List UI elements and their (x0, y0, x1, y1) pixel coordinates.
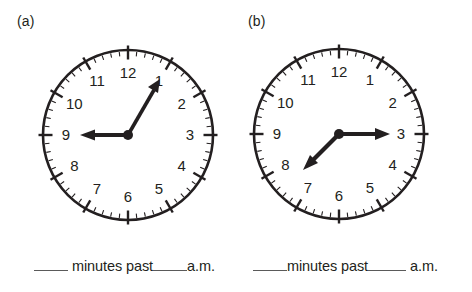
blank-minutes-b[interactable] (253, 270, 287, 271)
clock-numeral: 8 (281, 156, 289, 173)
clock-numeral: 7 (304, 179, 312, 196)
panel-label-b: (b) (248, 13, 266, 29)
clock-numeral: 6 (335, 187, 343, 204)
label-minutes-past-b: minutes past (287, 258, 368, 274)
clock-face-a: 121234567891011 (38, 45, 218, 225)
clock-numeral: 11 (89, 72, 105, 89)
clock-numeral: 4 (389, 156, 397, 173)
clock-numeral: 10 (277, 94, 294, 111)
clock-numeral: 4 (178, 157, 186, 174)
panel-label-a: (a) (17, 13, 35, 29)
clock-numeral: 9 (62, 126, 70, 143)
clock-numeral: 11 (300, 71, 316, 88)
label-minutes-past-a: minutes past (72, 258, 153, 274)
blank-hour-a[interactable] (153, 270, 187, 271)
clock-numeral: 12 (331, 63, 348, 80)
clock-numeral: 3 (186, 126, 194, 143)
clock-face-b: 121234567891011 (249, 44, 429, 224)
clock-numeral: 8 (70, 157, 78, 174)
clock-numeral: 2 (178, 95, 186, 112)
clock-numeral: 9 (273, 125, 281, 142)
label-meridiem-a: a.m. (187, 258, 215, 274)
clock-a-svg: 121234567891011 (38, 45, 218, 225)
clock-numeral: 10 (66, 95, 83, 112)
label-meridiem-b: a.m. (410, 258, 438, 274)
clock-numeral: 7 (93, 180, 101, 197)
clock-numeral: 1 (366, 71, 374, 88)
clock-numeral: 3 (397, 125, 405, 142)
blank-hour-b[interactable] (368, 270, 406, 271)
clock-numeral: 6 (124, 188, 132, 205)
clock-b-svg: 121234567891011 (249, 44, 429, 224)
clock-numeral: 12 (120, 64, 137, 81)
clock-numeral: 5 (155, 180, 163, 197)
answer-prompt-a: minutes pasta.m. (34, 258, 215, 274)
answer-prompt-b: minutes pasta.m. (253, 258, 438, 274)
clock-numeral: 2 (389, 94, 397, 111)
clock-b-center-pin (334, 129, 344, 139)
clock-a-center-pin (123, 130, 133, 140)
blank-minutes-a[interactable] (34, 270, 68, 271)
clock-numeral: 5 (366, 179, 374, 196)
